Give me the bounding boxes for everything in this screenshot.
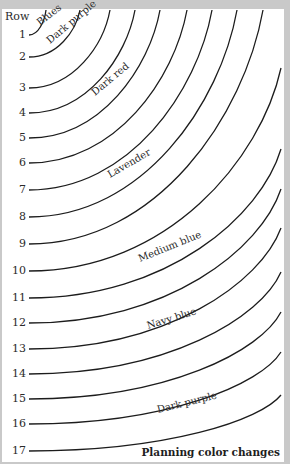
row-arc: [29, 149, 281, 298]
color-band-label: Dark purple: [156, 389, 218, 414]
row-arc: [29, 352, 281, 424]
figure-caption: Planning color changes: [141, 446, 280, 458]
color-band-label: Navy blue: [145, 305, 197, 330]
color-band-label: Lavender: [106, 146, 153, 179]
color-band-label: Medium blue: [137, 229, 203, 264]
row-arc: [29, 10, 160, 138]
color-change-arcs: BluesDark purpleDark redLavenderMedium b…: [0, 0, 290, 464]
color-band-label: Dark red: [89, 60, 131, 98]
row-arc: [29, 10, 237, 217]
row-arc: [29, 10, 135, 113]
